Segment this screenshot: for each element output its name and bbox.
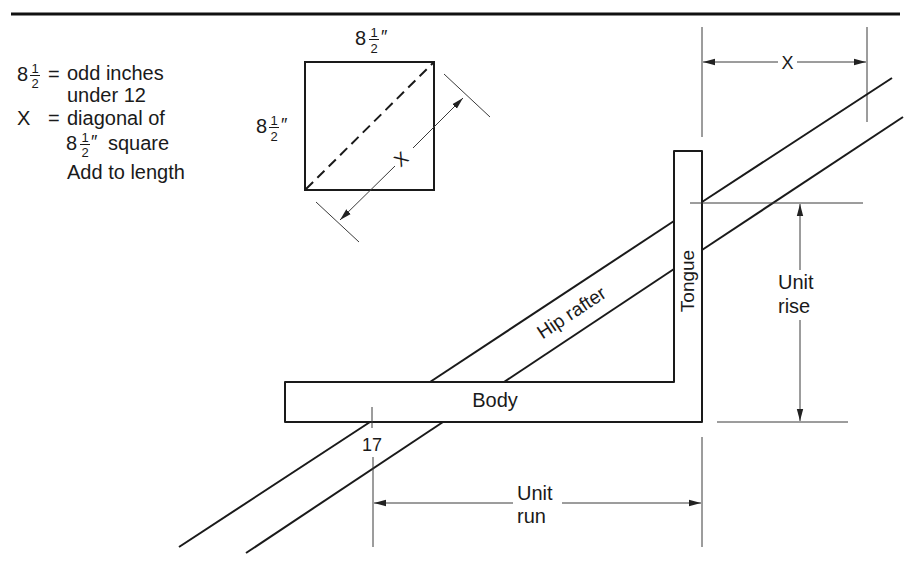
diagonal-dimension-arrow-upper bbox=[413, 98, 463, 148]
rafter-lower-edge-lower-segment bbox=[246, 422, 443, 553]
legend-line1-text: odd inches bbox=[67, 62, 164, 84]
rafter-upper-edge-middle-segment bbox=[430, 221, 674, 382]
square-diagonal-dashed bbox=[306, 63, 433, 189]
square-side-label-denominator: 2 bbox=[270, 129, 277, 144]
legend-line2-text: under 12 bbox=[67, 84, 146, 106]
square-side-label-inch-mark: ″ bbox=[281, 115, 288, 135]
mark-17-label: 17 bbox=[362, 435, 382, 455]
tongue-label: Tongue bbox=[677, 250, 698, 312]
legend: 8 1 2 = odd inches under 12 X = diagonal… bbox=[17, 61, 185, 183]
x-dimension-label: X bbox=[781, 53, 793, 73]
legend-line1-whole: 8 bbox=[17, 63, 28, 85]
square-top-label-inch-mark: ″ bbox=[381, 27, 388, 47]
legend-line5-text: Add to length bbox=[67, 161, 185, 183]
legend-line4-denominator: 2 bbox=[81, 145, 88, 160]
legend-line3-text: diagonal of bbox=[67, 107, 165, 129]
square-top-label-numerator: 1 bbox=[370, 25, 377, 40]
framing-square-outline bbox=[285, 151, 702, 422]
body-label: Body bbox=[472, 389, 518, 411]
legend-line3-symbol: X bbox=[17, 107, 30, 129]
square-diagram: 8 1 2 ″ 8 1 2 ″ X bbox=[256, 25, 490, 242]
square-side-label-whole: 8 bbox=[256, 115, 267, 137]
rafter-lower-edge-middle-segment bbox=[504, 269, 674, 382]
unit-run-label-line2: run bbox=[517, 505, 546, 527]
square-top-label-whole: 8 bbox=[355, 27, 366, 49]
legend-line4-inch-mark: ″ bbox=[91, 132, 98, 152]
hip-rafter-diagram: 8 1 2 = odd inches under 12 X = diagonal… bbox=[0, 0, 922, 566]
diagonal-dimension-arrow-lower bbox=[340, 166, 395, 220]
unit-rise-label-line1: Unit bbox=[778, 271, 814, 293]
legend-line4-numerator: 1 bbox=[81, 130, 88, 145]
legend-line1-numerator: 1 bbox=[31, 61, 38, 76]
legend-line4-whole: 8 bbox=[66, 132, 77, 154]
rafter-upper-edge-upper-segment bbox=[702, 78, 892, 202]
framing-square-diagram: X Tongue Body Hip rafter 17 Unit rise Un… bbox=[179, 27, 903, 553]
square-side-label-numerator: 1 bbox=[270, 113, 277, 128]
legend-line1-equals: = bbox=[48, 63, 60, 85]
legend-line4-text: square bbox=[108, 132, 169, 154]
legend-line1-denominator: 2 bbox=[31, 76, 38, 91]
rafter-upper-edge-lower-segment bbox=[179, 422, 370, 547]
hip-rafter-label: Hip rafter bbox=[533, 282, 610, 343]
square-top-label-denominator: 2 bbox=[370, 41, 377, 56]
unit-run-label-line1: Unit bbox=[517, 482, 553, 504]
unit-rise-label-line2: rise bbox=[778, 295, 810, 317]
legend-line3-equals: = bbox=[48, 107, 60, 129]
